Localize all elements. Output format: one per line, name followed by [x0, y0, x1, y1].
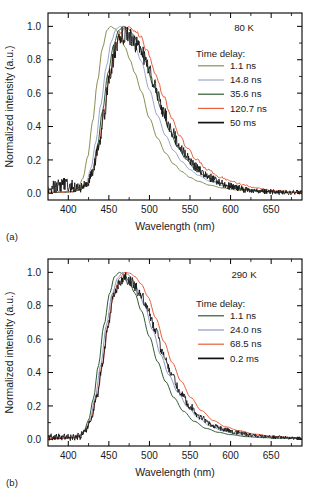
y-tick-label: 0.2 — [27, 155, 41, 166]
plot-area-a: 4004505005506006500.00.20.40.60.81.0Wave… — [0, 0, 315, 245]
panel-label-a: (a) — [6, 231, 18, 242]
x-tick-label: 400 — [60, 450, 77, 461]
y-tick-label: 0.6 — [27, 88, 41, 99]
legend-label: 14.8 ns — [230, 74, 262, 85]
legend-label: 50 ms — [230, 117, 256, 128]
x-tick-label: 500 — [141, 204, 158, 215]
legend-label: 68.5 ns — [230, 338, 262, 349]
y-axis-title: Normalized intensity (a.u.) — [3, 46, 15, 168]
x-tick-label: 400 — [60, 204, 77, 215]
x-tick-label: 450 — [101, 450, 118, 461]
series-line — [48, 272, 301, 438]
panel-label-b: (b) — [6, 477, 18, 488]
x-tick-label: 650 — [263, 450, 280, 461]
legend-label: 1.1 ns — [230, 310, 256, 321]
x-tick-label: 450 — [101, 204, 118, 215]
x-tick-label: 650 — [263, 204, 280, 215]
legend-label: 1.1 ns — [230, 60, 256, 71]
x-axis-title: Wavelength (nm) — [135, 466, 215, 478]
x-tick-label: 500 — [141, 450, 158, 461]
temperature-annotation: 80 K — [234, 22, 254, 33]
y-tick-label: 0.0 — [27, 188, 41, 199]
x-tick-label: 600 — [222, 204, 239, 215]
plot-frame — [48, 259, 302, 446]
y-tick-label: 0.4 — [27, 121, 41, 132]
y-tick-label: 0.0 — [27, 434, 41, 445]
legend-title: Time delay: — [196, 298, 245, 309]
legend-label: 120.7 ns — [230, 103, 267, 114]
legend-title: Time delay: — [196, 48, 245, 59]
y-tick-label: 1.0 — [27, 21, 41, 32]
y-tick-label: 0.4 — [27, 367, 41, 378]
series-line — [48, 272, 301, 438]
panel-a: 4004505005506006500.00.20.40.60.81.0Wave… — [0, 0, 315, 245]
figure-root: 4004505005506006500.00.20.40.60.81.0Wave… — [0, 0, 315, 491]
x-axis-title: Wavelength (nm) — [135, 220, 215, 232]
y-tick-label: 0.8 — [27, 300, 41, 311]
legend-label: 24.0 ns — [230, 324, 262, 335]
y-axis-title: Normalized intensity (a.u.) — [3, 292, 15, 414]
x-tick-label: 600 — [222, 450, 239, 461]
series-line — [48, 273, 302, 441]
x-tick-label: 550 — [182, 204, 199, 215]
y-tick-label: 0.2 — [27, 401, 41, 412]
y-tick-label: 0.8 — [27, 54, 41, 65]
legend-label: 35.6 ns — [230, 88, 262, 99]
series-line — [48, 272, 301, 438]
legend-label: 0.2 ms — [230, 353, 259, 364]
y-tick-label: 0.6 — [27, 334, 41, 345]
y-tick-label: 1.0 — [27, 267, 41, 278]
plot-area-b: 4004505005506006500.00.20.40.60.81.0Wave… — [0, 246, 315, 491]
panel-b: 4004505005506006500.00.20.40.60.81.0Wave… — [0, 246, 315, 491]
data-curves — [48, 272, 302, 440]
x-tick-label: 550 — [182, 450, 199, 461]
temperature-annotation: 290 K — [231, 269, 257, 280]
